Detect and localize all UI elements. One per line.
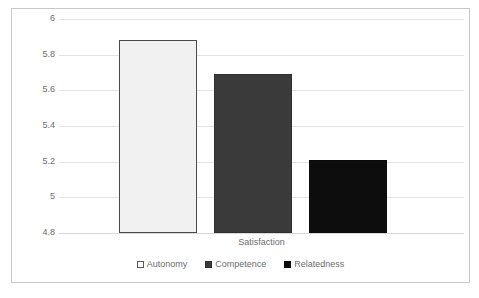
y-axis-tick-label: 6 (15, 14, 55, 23)
legend-label: Relatedness (294, 259, 344, 269)
legend-label: Autonomy (147, 259, 188, 269)
bars-group (59, 19, 464, 233)
legend-swatch-icon (284, 261, 291, 268)
y-axis-tick-label: 4.8 (15, 228, 55, 237)
legend-swatch-icon (205, 261, 212, 268)
legend-item-relatedness[interactable]: Relatedness (284, 259, 344, 269)
y-axis-tick-label: 5.6 (15, 85, 55, 94)
y-axis: 65.85.65.45.254.8 (12, 19, 55, 233)
bar-relatedness[interactable] (309, 160, 387, 233)
chart-legend: AutonomyCompetenceRelatedness (12, 259, 469, 269)
legend-swatch-icon (137, 261, 144, 268)
legend-label: Competence (215, 259, 266, 269)
y-axis-tick-label: 5.4 (15, 121, 55, 130)
bar-autonomy[interactable] (119, 40, 197, 233)
chart-frame: 65.85.65.45.254.8 Satisfaction AutonomyC… (11, 8, 470, 283)
y-axis-tick-label: 5.2 (15, 157, 55, 166)
y-axis-tick-label: 5 (15, 192, 55, 201)
gridline (59, 233, 464, 234)
legend-item-competence[interactable]: Competence (205, 259, 266, 269)
legend-item-autonomy[interactable]: Autonomy (137, 259, 188, 269)
y-axis-tick-label: 5.8 (15, 50, 55, 59)
bar-competence[interactable] (214, 74, 292, 233)
x-axis-label: Satisfaction (59, 237, 464, 247)
plot-area (59, 19, 464, 233)
